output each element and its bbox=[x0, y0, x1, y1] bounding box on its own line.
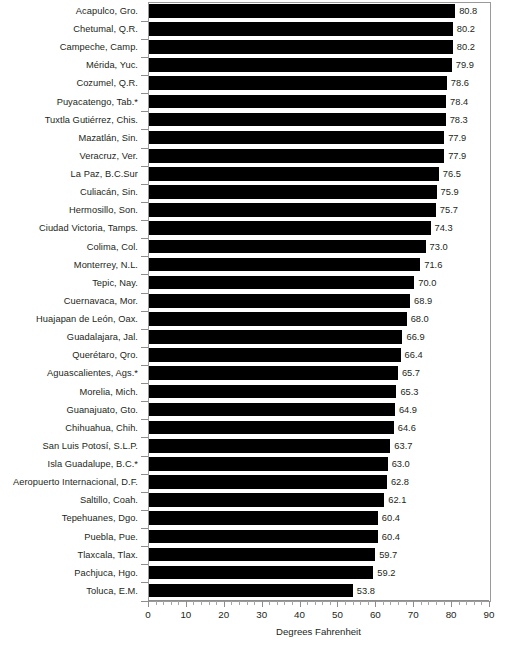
bar-row: La Paz, B.C.Sur76.5 bbox=[0, 165, 506, 184]
bar-value-label: 77.9 bbox=[448, 147, 466, 166]
bar-row: Cuernavaca, Mor.68.9 bbox=[0, 292, 506, 311]
x-axis-tick-label: 0 bbox=[145, 609, 150, 620]
bar-value-label: 59.2 bbox=[377, 564, 395, 583]
bar-row: Cozumel, Q.R.78.6 bbox=[0, 74, 506, 93]
x-axis-minor-tick bbox=[428, 601, 429, 605]
bar-row: Morelia, Mich.65.3 bbox=[0, 383, 506, 402]
category-label: Tepic, Nay. bbox=[92, 274, 138, 293]
x-axis-major-tick bbox=[262, 601, 263, 607]
x-axis-minor-tick bbox=[390, 601, 391, 605]
x-axis-minor-tick bbox=[474, 601, 475, 605]
bar bbox=[149, 584, 353, 598]
x-axis-tick-label: 90 bbox=[484, 609, 495, 620]
x-axis-tick-label: 80 bbox=[446, 609, 457, 620]
x-axis-tick-label: 20 bbox=[218, 609, 229, 620]
category-label: Morelia, Mich. bbox=[79, 383, 138, 402]
category-label: Veracruz, Ver. bbox=[79, 147, 138, 166]
category-label: Ciudad Victoria, Tamps. bbox=[39, 219, 138, 238]
bar-row: Puyacatengo, Tab.*78.4 bbox=[0, 93, 506, 112]
bar bbox=[149, 439, 390, 453]
bar-value-label: 68.0 bbox=[411, 310, 429, 329]
bar-value-label: 62.8 bbox=[391, 473, 409, 492]
bar-value-label: 75.7 bbox=[440, 201, 458, 220]
x-axis-major-tick bbox=[375, 601, 376, 607]
x-axis-tick-label: 70 bbox=[408, 609, 419, 620]
x-axis-minor-tick bbox=[466, 601, 467, 605]
bar-value-label: 80.8 bbox=[459, 2, 477, 21]
bar-row: Hermosillo, Son.75.7 bbox=[0, 201, 506, 220]
x-axis-major-tick bbox=[489, 601, 490, 607]
x-axis-tick-label: 60 bbox=[370, 609, 381, 620]
x-axis: 0102030405060708090 Degrees Fahrenheit bbox=[148, 600, 490, 645]
category-label: Tepehuanes, Dgo. bbox=[62, 509, 138, 528]
category-label: Guadalajara, Jal. bbox=[67, 328, 138, 347]
bar-row: Tepehuanes, Dgo.60.4 bbox=[0, 509, 506, 528]
x-axis-minor-tick bbox=[254, 601, 255, 605]
bar-row: Puebla, Pue.60.4 bbox=[0, 528, 506, 547]
x-axis-major-tick bbox=[300, 601, 301, 607]
bar-value-label: 78.4 bbox=[450, 93, 468, 112]
category-label: Puebla, Pue. bbox=[84, 528, 138, 547]
bar-row: Colima, Col.73.0 bbox=[0, 238, 506, 257]
category-label: Aguascalientes, Ags.* bbox=[47, 364, 138, 383]
x-axis-minor-tick bbox=[481, 601, 482, 605]
bar-rows-container: Acapulco, Gro.80.8Chetumal, Q.R.80.2Camp… bbox=[0, 2, 506, 600]
bar bbox=[149, 58, 452, 72]
bar-row: Acapulco, Gro.80.8 bbox=[0, 2, 506, 21]
bar-value-label: 64.6 bbox=[398, 419, 416, 438]
bar bbox=[149, 330, 402, 344]
bar-value-label: 64.9 bbox=[399, 401, 417, 420]
bar bbox=[149, 475, 387, 489]
category-label: Mérida, Yuc. bbox=[86, 56, 138, 75]
category-label: Tuxtla Gutiérrez, Chis. bbox=[45, 111, 138, 130]
bar bbox=[149, 22, 453, 36]
bar-chart: Acapulco, Gro.80.8Chetumal, Q.R.80.2Camp… bbox=[0, 0, 506, 645]
x-axis-minor-tick bbox=[292, 601, 293, 605]
bar bbox=[149, 457, 388, 471]
category-label: Isla Guadalupe, B.C.* bbox=[48, 455, 138, 474]
bar-row: Chetumal, Q.R.80.2 bbox=[0, 20, 506, 39]
bar-row: San Luis Potosí, S.L.P.63.7 bbox=[0, 437, 506, 456]
category-label: Huajapan de León, Oax. bbox=[36, 310, 138, 329]
x-axis-minor-tick bbox=[345, 601, 346, 605]
bar bbox=[149, 493, 384, 507]
bar-value-label: 71.6 bbox=[424, 256, 442, 275]
bar bbox=[149, 113, 446, 127]
category-label: Chihuahua, Chih. bbox=[65, 419, 138, 438]
bar-value-label: 65.7 bbox=[402, 364, 420, 383]
category-label: La Paz, B.C.Sur bbox=[71, 165, 138, 184]
x-axis-minor-tick bbox=[193, 601, 194, 605]
x-axis-major-tick bbox=[148, 601, 149, 607]
bar-value-label: 75.9 bbox=[441, 183, 459, 202]
bar bbox=[149, 221, 431, 235]
bar-row: Mérida, Yuc.79.9 bbox=[0, 56, 506, 75]
bar bbox=[149, 149, 444, 163]
bar-value-label: 60.4 bbox=[382, 509, 400, 528]
bar-value-label: 63.0 bbox=[392, 455, 410, 474]
bar bbox=[149, 294, 410, 308]
bar-value-label: 73.0 bbox=[430, 238, 448, 257]
x-axis-title: Degrees Fahrenheit bbox=[148, 626, 489, 637]
category-label: Acapulco, Gro. bbox=[76, 2, 138, 21]
x-axis-minor-tick bbox=[239, 601, 240, 605]
category-label: Culiacán, Sin. bbox=[80, 183, 138, 202]
bar-value-label: 66.9 bbox=[406, 328, 424, 347]
x-axis-minor-tick bbox=[315, 601, 316, 605]
category-label: Guanajuato, Gto. bbox=[66, 401, 138, 420]
x-axis-minor-tick bbox=[444, 601, 445, 605]
category-label: Colima, Col. bbox=[87, 238, 138, 257]
category-label: Puyacatengo, Tab.* bbox=[57, 93, 138, 112]
category-label: Campeche, Camp. bbox=[60, 38, 138, 57]
x-axis-minor-tick bbox=[201, 601, 202, 605]
bar bbox=[149, 511, 378, 525]
bar-row: Guadalajara, Jal.66.9 bbox=[0, 328, 506, 347]
x-axis-minor-tick bbox=[360, 601, 361, 605]
category-label: Hermosillo, Son. bbox=[69, 201, 138, 220]
category-label: Aeropuerto Internacional, D.F. bbox=[13, 473, 138, 492]
bar-row: Tlaxcala, Tlax.59.7 bbox=[0, 546, 506, 565]
bar bbox=[149, 203, 436, 217]
x-axis-minor-tick bbox=[353, 601, 354, 605]
bar-value-label: 62.1 bbox=[388, 491, 406, 510]
x-axis-minor-tick bbox=[156, 601, 157, 605]
bar bbox=[149, 566, 373, 580]
